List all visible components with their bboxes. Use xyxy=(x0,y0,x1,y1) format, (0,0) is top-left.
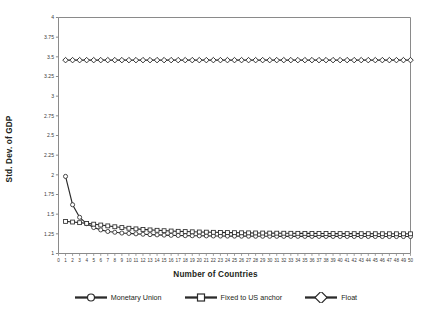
x-axis-ticks: 0123456789101112131415161718192021222324… xyxy=(57,254,413,263)
legend-label-float: Float xyxy=(341,293,357,302)
svg-text:2: 2 xyxy=(71,258,74,263)
data-series-group xyxy=(63,57,413,238)
svg-text:19: 19 xyxy=(190,258,196,263)
legend-item-float[interactable]: Float xyxy=(304,292,357,303)
svg-text:1.5: 1.5 xyxy=(47,211,54,217)
svg-text:3: 3 xyxy=(51,93,54,99)
svg-text:0: 0 xyxy=(57,258,60,263)
y-axis-title: Std. Dev. of GDP xyxy=(5,104,15,194)
legend-marker-circle-icon xyxy=(74,292,108,303)
legend-label-monetary-union: Monetary Union xyxy=(111,293,162,302)
svg-text:40: 40 xyxy=(338,258,344,263)
svg-text:3.5: 3.5 xyxy=(47,54,54,60)
svg-text:25: 25 xyxy=(232,258,238,263)
svg-text:48: 48 xyxy=(394,258,400,263)
svg-text:1: 1 xyxy=(51,250,54,256)
svg-text:29: 29 xyxy=(260,258,266,263)
svg-text:27: 27 xyxy=(246,258,252,263)
svg-text:18: 18 xyxy=(183,258,189,263)
svg-text:43: 43 xyxy=(359,258,365,263)
svg-text:16: 16 xyxy=(169,258,175,263)
svg-text:4: 4 xyxy=(51,14,54,20)
svg-text:8: 8 xyxy=(114,258,117,263)
svg-text:50: 50 xyxy=(408,258,414,263)
legend-item-fixed-to-us-anchor[interactable]: Fixed to US anchor xyxy=(184,292,283,303)
svg-text:36: 36 xyxy=(309,258,315,263)
svg-text:17: 17 xyxy=(176,258,182,263)
svg-text:3.75: 3.75 xyxy=(44,34,54,40)
svg-text:14: 14 xyxy=(154,258,160,263)
svg-text:42: 42 xyxy=(352,258,358,263)
svg-text:32: 32 xyxy=(281,258,287,263)
svg-text:31: 31 xyxy=(274,258,280,263)
svg-text:20: 20 xyxy=(197,258,203,263)
svg-text:1: 1 xyxy=(64,258,67,263)
svg-text:35: 35 xyxy=(302,258,308,263)
svg-text:4: 4 xyxy=(85,258,88,263)
svg-text:11: 11 xyxy=(134,258,139,263)
svg-text:6: 6 xyxy=(99,258,102,263)
svg-text:28: 28 xyxy=(253,258,259,263)
svg-text:49: 49 xyxy=(401,258,407,263)
svg-text:47: 47 xyxy=(387,258,393,263)
svg-text:1.75: 1.75 xyxy=(44,191,54,197)
x-axis-title: Number of Countries xyxy=(0,270,431,279)
svg-text:1.25: 1.25 xyxy=(44,231,54,237)
svg-text:41: 41 xyxy=(345,258,351,263)
svg-text:21: 21 xyxy=(204,258,210,263)
legend-marker-square-icon xyxy=(184,292,218,303)
svg-text:2: 2 xyxy=(51,172,54,178)
legend-item-monetary-union[interactable]: Monetary Union xyxy=(74,292,162,303)
svg-text:22: 22 xyxy=(211,258,217,263)
legend-marker-diamond-icon xyxy=(304,292,338,303)
svg-text:39: 39 xyxy=(330,258,336,263)
svg-text:15: 15 xyxy=(162,258,168,263)
y-axis-ticks: 11.251.51.7522.252.52.7533.253.53.754 xyxy=(44,14,58,256)
svg-text:33: 33 xyxy=(288,258,294,263)
svg-text:9: 9 xyxy=(121,258,124,263)
svg-text:46: 46 xyxy=(380,258,386,263)
svg-text:26: 26 xyxy=(239,258,245,263)
svg-text:2.75: 2.75 xyxy=(44,113,54,119)
svg-text:23: 23 xyxy=(218,258,224,263)
svg-text:2.5: 2.5 xyxy=(47,132,54,138)
svg-text:10: 10 xyxy=(126,258,132,263)
legend-label-fixed-to-us-anchor: Fixed to US anchor xyxy=(221,293,283,302)
svg-text:30: 30 xyxy=(267,258,273,263)
svg-text:5: 5 xyxy=(92,258,95,263)
svg-text:12: 12 xyxy=(140,258,146,263)
axis-frame xyxy=(59,18,411,254)
svg-text:3: 3 xyxy=(78,258,81,263)
svg-text:3.25: 3.25 xyxy=(44,73,54,79)
svg-text:38: 38 xyxy=(323,258,329,263)
svg-text:34: 34 xyxy=(295,258,301,263)
svg-text:7: 7 xyxy=(106,258,109,263)
svg-text:44: 44 xyxy=(366,258,372,263)
svg-text:37: 37 xyxy=(316,258,322,263)
series-float xyxy=(63,57,413,63)
chart-figure: 11.251.51.7522.252.52.7533.253.53.754 01… xyxy=(0,0,431,318)
chart-legend: Monetary Union Fixed to US anchor Float xyxy=(0,292,431,303)
svg-text:24: 24 xyxy=(225,258,231,263)
svg-text:13: 13 xyxy=(147,258,153,263)
svg-text:2.25: 2.25 xyxy=(44,152,54,158)
svg-text:45: 45 xyxy=(373,258,379,263)
